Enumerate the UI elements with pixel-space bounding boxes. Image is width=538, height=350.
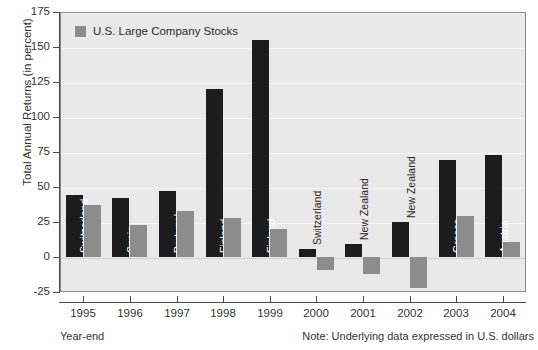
bar-us-large-company — [84, 205, 101, 257]
bar-us-large-company — [317, 257, 334, 270]
gridline — [61, 293, 525, 294]
x-axis-tick — [270, 296, 271, 303]
chart-note: Note: Underlying data expressed in U.S. … — [302, 330, 534, 342]
bar-country-label: New Zealand — [359, 179, 370, 241]
bar-us-large-company — [130, 225, 147, 257]
y-axis-tick — [53, 82, 59, 83]
x-axis-tick-label: 2000 — [291, 307, 341, 319]
bar-best-country — [345, 244, 362, 257]
bar-us-large-company — [363, 257, 380, 274]
bar-country-label: Switzerland — [312, 190, 323, 244]
y-axis-tick — [53, 292, 59, 293]
bar-best-country — [299, 249, 316, 257]
gridline — [61, 83, 525, 84]
y-axis-line — [59, 12, 60, 293]
x-axis-tick-label: 1997 — [152, 307, 202, 319]
bar-us-large-company — [457, 216, 474, 257]
x-axis-tick-label: 2004 — [478, 307, 528, 319]
x-axis-tick — [83, 296, 84, 303]
x-axis-tick — [223, 296, 224, 303]
bar-us-large-company — [270, 229, 287, 257]
legend-label: U.S. Large Company Stocks — [93, 25, 238, 37]
x-axis-tick-label: 2003 — [431, 307, 481, 319]
x-axis-tick-label: 1998 — [198, 307, 248, 319]
y-axis-tick-label: -25 — [6, 286, 50, 298]
x-axis-tick-label: 2002 — [385, 307, 435, 319]
x-axis-tick-label: 1999 — [245, 307, 295, 319]
x-axis-tick-label: 1996 — [105, 307, 155, 319]
x-axis-tick — [177, 296, 178, 303]
chart-root: 1751501251007550250-25 Total Annual Retu… — [0, 0, 538, 350]
bar-us-large-company — [177, 211, 194, 257]
bar-us-large-company — [410, 257, 427, 288]
bar-best-country — [392, 222, 409, 257]
gridline — [61, 153, 525, 154]
x-axis-tick — [363, 296, 364, 303]
y-axis-tick-label: 0 — [6, 251, 50, 263]
x-axis-tick — [130, 296, 131, 303]
bar-us-large-company — [503, 242, 520, 257]
x-axis-tick-label: 1995 — [58, 307, 108, 319]
x-axis-tick — [316, 296, 317, 303]
y-axis-tick — [53, 187, 59, 188]
zero-gridline — [61, 258, 525, 259]
y-axis-tick — [53, 152, 59, 153]
x-axis-tick-label: 2001 — [338, 307, 388, 319]
y-axis-tick-label: 25 — [6, 216, 50, 228]
gridline — [61, 13, 525, 14]
y-axis-tick — [53, 257, 59, 258]
x-axis-caption: Year-end — [60, 330, 104, 342]
x-axis-tick — [503, 296, 504, 303]
y-axis-tick — [53, 222, 59, 223]
x-axis-tick — [410, 296, 411, 303]
bar-country-label: New Zealand — [406, 156, 417, 218]
gridline — [61, 48, 525, 49]
bar-us-large-company — [224, 218, 241, 257]
x-axis-tick — [456, 296, 457, 303]
y-axis-tick — [53, 117, 59, 118]
y-axis-title: Total Annual Returns (in percent) — [21, 12, 33, 192]
y-axis-tick — [53, 12, 59, 13]
legend-swatch-icon — [75, 26, 86, 37]
gridline — [61, 118, 525, 119]
legend: U.S. Large Company Stocks — [75, 25, 238, 37]
y-axis-tick — [53, 47, 59, 48]
